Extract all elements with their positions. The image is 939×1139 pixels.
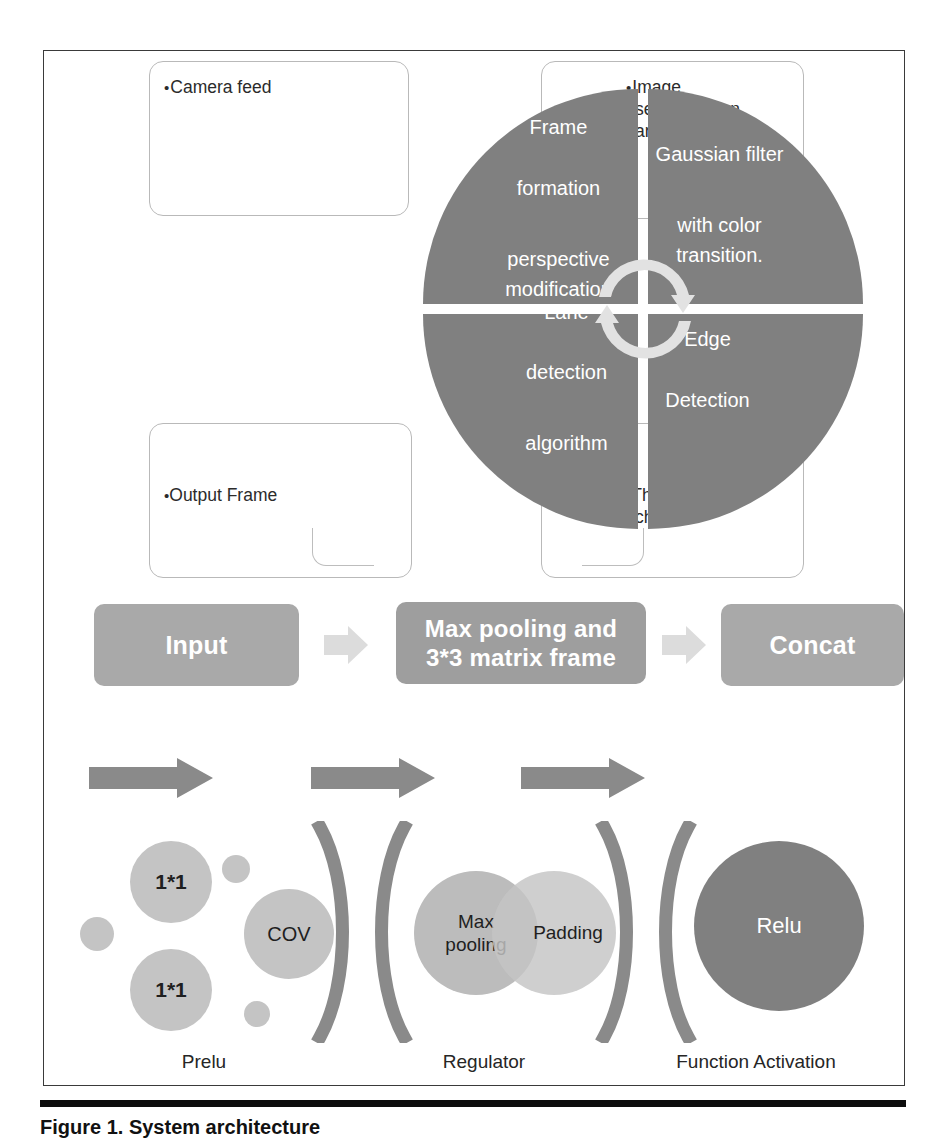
node-dot-left	[80, 917, 114, 951]
caption-rule	[40, 1100, 906, 1107]
paren-right-regulator-icon	[592, 821, 646, 1043]
pipeline-step-concat[interactable]: Concat	[721, 604, 904, 686]
chevron-arrow-icon	[322, 623, 370, 667]
node-dot-lower	[244, 1001, 270, 1027]
node-dot-upper	[222, 855, 250, 883]
callout-line: •Output Frame	[164, 484, 399, 506]
connector-stem-right	[582, 528, 644, 566]
node-label: Relu	[756, 913, 801, 939]
quadrant-wheel: Frame formation perspective modification…	[423, 89, 863, 529]
group-label-function-activation: Function Activation	[606, 1051, 906, 1073]
paren-left-regulator-icon	[362, 821, 416, 1043]
connector-stem-left	[312, 528, 374, 566]
block-arrow-3-icon	[521, 758, 645, 798]
node-label: 1*1	[155, 870, 187, 894]
node-label: COV	[267, 923, 310, 946]
callout-line: Camera feed	[164, 76, 396, 98]
paren-right-prelu-icon	[308, 821, 362, 1043]
chevron-arrow-icon	[660, 623, 708, 667]
block-arrow-1-icon	[89, 758, 213, 798]
callout-camera-feed: Camera feed	[149, 61, 409, 216]
node-one-by-one-bottom[interactable]: 1*1	[130, 949, 212, 1031]
cycle-arrows-icon	[575, 239, 715, 379]
node-relu[interactable]: Relu	[694, 841, 864, 1011]
block-arrow-2-icon	[311, 758, 435, 798]
figure-frame: Camera feed Image segmentation and filte…	[43, 50, 905, 1086]
pipeline-step-label: Max pooling and 3*3 matrix frame	[425, 614, 617, 673]
pipeline-step-input[interactable]: Input	[94, 604, 299, 686]
pipeline-step-label: Input	[165, 630, 227, 661]
pipeline-step-maxpool[interactable]: Max pooling and 3*3 matrix frame	[396, 602, 646, 684]
figure-caption: Figure 1. System architecture	[40, 1116, 906, 1139]
group-label-prelu: Prelu	[89, 1051, 319, 1073]
node-one-by-one-top[interactable]: 1*1	[130, 841, 212, 923]
pipeline-step-label: Concat	[770, 630, 856, 661]
group-label-regulator: Regulator	[374, 1051, 594, 1073]
paren-left-activation-icon	[646, 821, 700, 1043]
node-label: 1*1	[155, 978, 187, 1002]
